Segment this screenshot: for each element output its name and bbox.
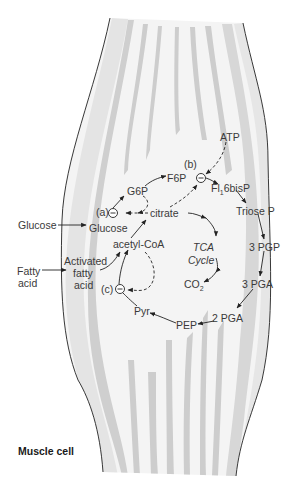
pep-label: PEP [176,319,197,331]
3pga-label: 3 PGA [242,278,273,290]
fatty-acid-external-label-2: acid [18,277,37,289]
tca-label: TCA [193,241,214,253]
acetyl-coa-label: acetyl-CoA [113,238,164,250]
muscle-cell-title: Muscle cell [18,445,74,457]
activated-fatty-acid-label-1: Activated [64,255,107,267]
f6p-label: F6P [167,172,186,184]
activated-fatty-acid-label-3: acid [74,279,93,291]
muscle-cell-body [61,18,270,476]
3pgp-label: 3 PGP [249,241,280,253]
fbp-label: Fl16bisP [211,182,250,196]
g6p-label: G6P [127,185,148,197]
triose-p-label: Triose P [236,205,275,217]
glucose-external-label: Glucose [18,219,57,231]
inhibition-site-c [116,285,125,294]
fatty-acid-external-label-1: Fatty [17,265,41,277]
inhibition-site-a [109,209,118,218]
2pga-label: 2 PGA [212,312,243,324]
inhibition-label-b: (b) [184,158,197,170]
tca-cycle-label: Cycle [188,254,214,266]
muscle-cell-metabolism-diagram: ATP (b) F6P Fl16bisP G6P Triose P (a) ci… [0,0,297,490]
inhibition-site-b [197,174,206,183]
inhibition-label-c: (c) [101,283,113,295]
inhibition-label-a: (a) [96,206,109,218]
activated-fatty-acid-label-2: fatty [73,267,94,279]
pyr-label: Pyr [134,305,150,317]
glucose-label: Glucose [89,222,128,234]
atp-label: ATP [220,131,240,143]
citrate-label: citrate [150,207,179,219]
